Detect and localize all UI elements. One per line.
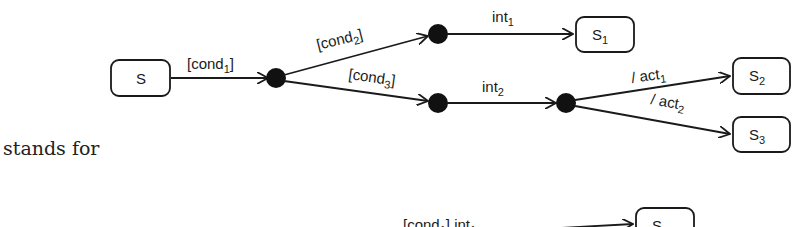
transition-cond3: [284, 81, 428, 101]
label-int2: int2: [482, 78, 504, 98]
junction-2: [428, 24, 448, 44]
label-int1: int1: [492, 8, 514, 28]
state-s2: S2: [733, 58, 790, 94]
svg-text:S: S: [136, 70, 146, 87]
label-act1: / act1: [630, 64, 667, 89]
state-s1: S1: [576, 17, 634, 52]
bottom-transition: [560, 224, 633, 227]
bottom-partial-diagram: [cond1] int1 S1: [403, 208, 694, 227]
state-s3: S3: [733, 117, 790, 152]
label-bottom-cond1-int1: [cond1] int1: [403, 216, 476, 227]
label-cond2: [cond2]: [315, 25, 365, 56]
stands-for-text: stands for: [3, 137, 99, 159]
junction-1: [266, 68, 286, 88]
transition-act2: [575, 106, 730, 134]
label-act2: / act2: [649, 90, 686, 116]
state-diagram: S [cond1] [cond2] [cond3] int1 S1 int2 /…: [0, 0, 793, 227]
label-cond1: [cond1]: [187, 55, 234, 75]
state-s: S: [111, 60, 170, 96]
junction-3: [428, 93, 448, 113]
junction-4: [556, 93, 576, 113]
label-cond3: [cond3]: [347, 65, 396, 91]
